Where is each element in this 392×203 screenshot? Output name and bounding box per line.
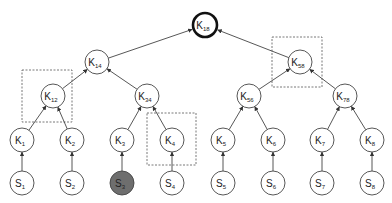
node-s6: S6 [261, 171, 285, 195]
node-circle [360, 171, 384, 195]
node-circle [10, 171, 34, 195]
nodes: K18K14K58K12K34K56K78K1K2K3K4K5K6K7K8S1S… [10, 13, 384, 195]
node-circle [310, 171, 334, 195]
node-circle [110, 171, 134, 195]
node-k34: K34 [135, 84, 159, 108]
node-s5: S5 [211, 171, 235, 195]
node-circle [110, 128, 134, 152]
node-k3: K3 [110, 128, 134, 152]
node-circle [211, 128, 235, 152]
node-k14: K14 [85, 50, 109, 74]
node-circle [360, 128, 384, 152]
node-k18: K18 [193, 13, 217, 37]
node-circle [60, 171, 84, 195]
node-s2: S2 [60, 171, 84, 195]
node-s1: S1 [10, 171, 34, 195]
node-circle [60, 128, 84, 152]
edge-k14-to-k18 [108, 29, 192, 58]
edge-k34-to-k14 [107, 69, 137, 90]
node-circle [160, 128, 184, 152]
node-k5: K5 [211, 128, 235, 152]
node-circle [211, 171, 235, 195]
edge-k3-to-k34 [128, 106, 141, 129]
node-k58: K58 [288, 50, 312, 74]
edge-k7-to-k78 [328, 107, 340, 130]
node-circle [160, 171, 184, 195]
node-circle [261, 171, 285, 195]
edge-k78-to-k58 [310, 69, 336, 89]
node-k7: K7 [310, 128, 334, 152]
edge-k58-to-k18 [218, 30, 289, 58]
node-s4: S4 [160, 171, 184, 195]
node-k2: K2 [60, 128, 84, 152]
node-k12: K12 [41, 84, 65, 108]
node-k8: K8 [360, 128, 384, 152]
node-s8: S8 [360, 171, 384, 195]
node-s7: S7 [310, 171, 334, 195]
edge-k2-to-k12 [58, 107, 67, 129]
diagram-canvas: K18K14K58K12K34K56K78K1K2K3K4K5K6K7K8S1S… [0, 0, 392, 203]
node-k6: K6 [261, 128, 285, 152]
edge-k6-to-k56 [255, 107, 268, 130]
node-k4: K4 [160, 128, 184, 152]
edge-k1-to-k12 [29, 106, 46, 130]
node-k56: K56 [237, 84, 261, 108]
node-k1: K1 [10, 128, 34, 152]
edge-k5-to-k56 [229, 106, 243, 129]
node-circle [310, 128, 334, 152]
edge-k8-to-k78 [351, 106, 365, 130]
key-tree-diagram: K18K14K58K12K34K56K78K1K2K3K4K5K6K7K8S1S… [0, 0, 392, 203]
edge-k4-to-k34 [153, 106, 166, 129]
node-circle [261, 128, 285, 152]
node-s3: S3 [110, 171, 134, 195]
node-circle [10, 128, 34, 152]
node-k78: K78 [333, 84, 357, 108]
edge-k12-to-k14 [62, 69, 87, 88]
edge-k56-to-k58 [259, 69, 290, 90]
